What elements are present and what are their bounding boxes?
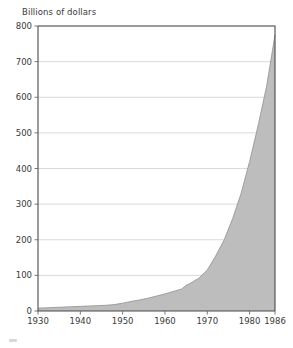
y-tick-label-700: 700: [16, 57, 32, 67]
y-tick-label-600: 600: [16, 92, 32, 102]
y-tick-label-500: 500: [16, 128, 32, 138]
x-tick-label-1970: 1970: [196, 316, 218, 326]
x-axis-ticks-group: 1930194019501960197019801986: [27, 311, 286, 326]
y-tick-label-200: 200: [16, 235, 32, 245]
y-tick-label-300: 300: [16, 199, 32, 209]
chart-plot-svg: 0100200300400500600700800 19301940195019…: [0, 0, 293, 348]
y-tick-label-800: 800: [16, 21, 32, 31]
y-tick-label-400: 400: [16, 164, 32, 174]
area-chart-figure: Billions of dollars 01002003004005006007…: [0, 0, 293, 348]
y-tick-label-0: 0: [27, 306, 32, 316]
scan-speck-artifact: [9, 339, 17, 342]
y-axis-ticks-group: 0100200300400500600700800: [16, 21, 38, 316]
y-tick-label-100: 100: [16, 270, 32, 280]
x-tick-label-1930: 1930: [27, 316, 49, 326]
area-series-group: [38, 35, 275, 311]
x-tick-label-1940: 1940: [70, 316, 92, 326]
x-tick-label-1960: 1960: [154, 316, 176, 326]
x-tick-label-1986: 1986: [264, 316, 286, 326]
x-tick-label-1980: 1980: [239, 316, 261, 326]
x-tick-label-1950: 1950: [112, 316, 134, 326]
area-fill-path: [38, 35, 275, 311]
